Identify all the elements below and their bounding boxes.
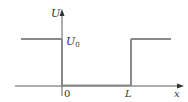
level-label: U0: [66, 35, 80, 49]
well-width-label: L: [124, 88, 132, 99]
level-label-sub: 0: [75, 41, 79, 49]
y-axis-label: U: [51, 7, 61, 20]
x-axis-label: x: [174, 88, 180, 99]
origin-label: 0: [64, 88, 70, 99]
potential-well-diagram: U U0 0 L x: [0, 0, 188, 102]
